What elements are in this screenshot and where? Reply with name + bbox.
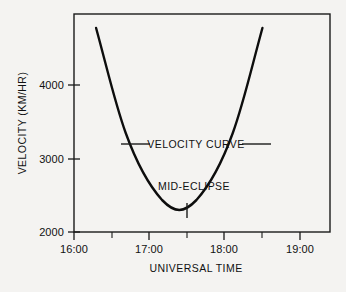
- y-tick-label-2000: 2000: [39, 226, 64, 238]
- mid-eclipse-label: MID-ECLIPSE: [158, 180, 230, 192]
- chart-figure: 4000 3000 2000 16:00 17:00 18:00 19:00 V…: [0, 0, 346, 292]
- x-tick-label-1900: 19:00: [286, 243, 314, 255]
- y-tick-label-4000: 4000: [39, 79, 64, 91]
- y-tick-label-3000: 3000: [39, 153, 64, 165]
- x-axis-minor-ticks: [112, 232, 262, 238]
- plot-frame: [74, 14, 330, 232]
- x-tick-label-1600: 16:00: [60, 243, 88, 255]
- x-tick-label-1700: 17:00: [135, 243, 163, 255]
- velocity-curve-chart: 4000 3000 2000 16:00 17:00 18:00 19:00 V…: [0, 0, 346, 292]
- y-axis-title: VELOCITY (KM/HR): [16, 72, 28, 175]
- x-tick-label-1800: 18:00: [210, 243, 238, 255]
- x-axis-title: UNIVERSAL TIME: [149, 262, 242, 274]
- velocity-curve-label: VELOCITY CURVE: [147, 138, 245, 150]
